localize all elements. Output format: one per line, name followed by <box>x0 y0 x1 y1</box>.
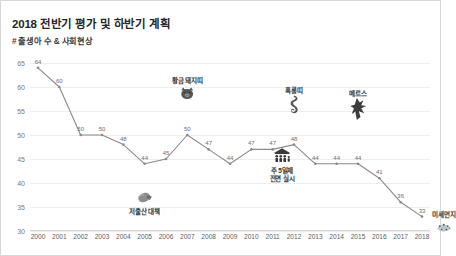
point-value-label: 44 <box>227 155 234 161</box>
x-tick-label: 2010 <box>244 233 259 240</box>
y-tick-label: 65 <box>17 60 25 67</box>
line-chart: 3035404550556065 64605050484445504744474… <box>30 63 430 231</box>
page-subtitle: # 출생아 수 & 사회현상 <box>12 34 93 46</box>
data-point <box>293 143 296 146</box>
x-tick-label: 2007 <box>180 233 195 240</box>
x-tick-label: 2014 <box>329 233 344 240</box>
x-tick-label: 2018 <box>415 233 430 240</box>
annotation-dust-cloud-icon: 미세먼지 <box>432 211 455 238</box>
annotation-label: 주 5일제전면 실시 <box>270 167 295 184</box>
point-value-label: 60 <box>56 78 63 84</box>
annotation-label: 황금 돼지띠 <box>172 77 203 86</box>
annotation-hand-fist-icon: 저출산 대책 <box>129 190 160 217</box>
y-tick-label: 50 <box>17 132 25 139</box>
hand-fist-icon <box>129 190 160 208</box>
point-value-label: 48 <box>120 136 127 142</box>
y-tick-label: 35 <box>17 204 25 211</box>
x-tick-label: 2002 <box>73 233 88 240</box>
annotation-pig-face-icon: 황금 돼지띠 <box>172 77 203 104</box>
x-tick-label: 2017 <box>393 233 408 240</box>
point-value-label: 64 <box>35 59 42 65</box>
data-point <box>250 148 253 151</box>
data-point <box>378 177 381 180</box>
x-tick-label: 2000 <box>31 233 46 240</box>
gridline-30 <box>30 231 430 232</box>
data-point <box>101 134 104 137</box>
data-point <box>79 134 82 137</box>
point-value-label: 48 <box>291 136 298 142</box>
x-tick-label: 2008 <box>201 233 216 240</box>
x-tick-label: 2001 <box>52 233 67 240</box>
data-point <box>229 163 232 166</box>
point-value-label: 44 <box>333 155 340 161</box>
data-point <box>122 143 125 146</box>
annotation-family-people-icon: 주 5일제전면 실시 <box>270 147 295 184</box>
y-tick-label: 60 <box>17 84 25 91</box>
point-value-label: 36 <box>397 193 404 199</box>
virus-spike-icon <box>349 98 366 124</box>
x-tick-label: 2004 <box>116 233 131 240</box>
dust-cloud-icon <box>432 219 455 237</box>
x-tick-label: 2015 <box>351 233 366 240</box>
point-value-label: 47 <box>205 140 212 146</box>
point-value-label: 33 <box>419 208 426 214</box>
y-tick-label: 45 <box>17 156 25 163</box>
data-point <box>58 86 61 89</box>
x-tick-label: 2012 <box>287 233 302 240</box>
family-people-icon <box>270 147 295 167</box>
data-point <box>37 67 40 70</box>
data-point <box>335 163 338 166</box>
data-point <box>357 163 360 166</box>
point-value-label: 50 <box>77 126 84 132</box>
data-point <box>399 201 402 204</box>
data-point <box>165 158 168 161</box>
annotation-dragon-icon: 흑룡띠 <box>285 87 302 119</box>
point-value-label: 44 <box>141 155 148 161</box>
pig-face-icon <box>172 86 203 104</box>
annotation-label: 저출산 대책 <box>129 208 160 217</box>
page-title: 2018 전반기 평가 및 하반기 계획 <box>12 15 171 31</box>
y-tick-label: 55 <box>17 108 25 115</box>
x-tick-label: 2003 <box>95 233 110 240</box>
point-value-label: 45 <box>163 150 170 156</box>
x-tick-label: 2016 <box>372 233 387 240</box>
point-value-label: 50 <box>184 126 191 132</box>
x-tick-label: 2005 <box>137 233 152 240</box>
annotation-virus-spike-icon: 메르스 <box>349 90 366 125</box>
annotation-label: 메르스 <box>349 90 366 99</box>
point-value-label: 47 <box>248 140 255 146</box>
point-value-label: 41 <box>376 169 383 175</box>
data-point <box>314 163 317 166</box>
point-value-label: 44 <box>355 155 362 161</box>
x-tick-label: 2011 <box>266 233 280 240</box>
data-point <box>186 134 189 137</box>
point-value-label: 44 <box>312 155 319 161</box>
series-path <box>30 63 430 231</box>
data-point <box>207 148 210 151</box>
y-tick-label: 40 <box>17 180 25 187</box>
data-point <box>421 215 424 218</box>
x-tick-label: 2009 <box>223 233 238 240</box>
point-value-label: 47 <box>269 140 276 146</box>
point-value-label: 50 <box>99 126 106 132</box>
y-tick-label: 30 <box>17 228 25 235</box>
dragon-icon <box>285 95 302 118</box>
annotation-label: 흑룡띠 <box>285 87 302 96</box>
annotation-label: 미세먼지 <box>432 211 455 220</box>
data-point <box>143 163 146 166</box>
x-tick-label: 2006 <box>159 233 174 240</box>
x-tick-label: 2013 <box>308 233 323 240</box>
